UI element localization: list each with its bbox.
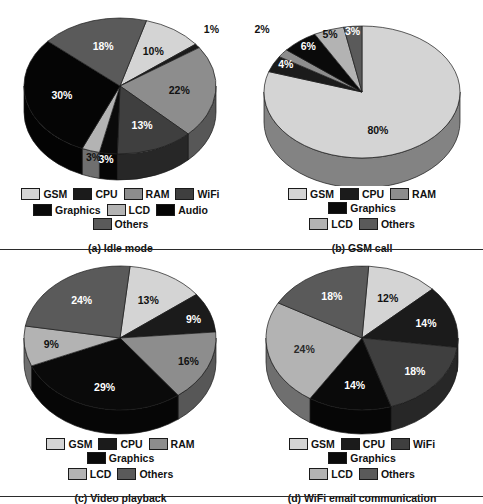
- legend-label-audio: Audio: [178, 204, 208, 216]
- legend-item-lcd: LCD: [309, 468, 353, 480]
- slice-value-label-gsm: 10%: [143, 45, 165, 57]
- legend-swatch-others: [359, 468, 378, 480]
- legend-swatch-gsm: [46, 438, 65, 450]
- legend-item-gsm: GSM: [288, 188, 334, 200]
- chart-panel-idle-mode: 10%1%22%13%3%3%30%18% GSMCPURAMWiFiGraph…: [0, 0, 241, 250]
- legend-swatch-gsm: [21, 188, 40, 200]
- legend-swatch-graphics: [33, 204, 52, 216]
- legend-label-cpu: CPU: [95, 188, 117, 200]
- slice-value-label-others: 18%: [93, 40, 115, 52]
- legend-item-gsm: GSM: [46, 438, 92, 450]
- panel-divider-middle: [0, 249, 483, 250]
- slice-value-label-graphics: 6%: [300, 40, 316, 52]
- chart-panel-gsm-call: 80%4%2%6%5%3% GSMCPURAMGraphicsLCDOthers…: [241, 0, 483, 250]
- legend-label-lcd: LCD: [129, 204, 151, 216]
- legend-label-gsm: GSM: [43, 188, 67, 200]
- legend-swatch-ram: [124, 188, 143, 200]
- slice-value-label-ram: 22%: [169, 84, 191, 96]
- legend-swatch-lcd: [309, 468, 328, 480]
- legend-item-lcd: LCD: [309, 218, 353, 230]
- legend-label-others: Others: [139, 468, 173, 480]
- legend-swatch-graphics: [328, 202, 347, 214]
- legend-item-cpu: CPU: [98, 438, 142, 450]
- legend-label-cpu: CPU: [362, 188, 384, 200]
- slice-value-label-lcd: 24%: [293, 343, 315, 355]
- legend-item-cpu: CPU: [340, 188, 384, 200]
- pie-svg: 12%14%18%14%24%18%: [250, 250, 475, 436]
- legend-item-graphics: Graphics: [328, 202, 396, 214]
- legend-item-others: Others: [359, 468, 415, 480]
- slice-value-label-wifi: 18%: [404, 365, 426, 377]
- slice-value-label-wifi: 13%: [132, 119, 154, 131]
- legend-idle-mode: GSMCPURAMWiFiGraphicsLCDAudioOthers: [8, 188, 234, 230]
- legend-swatch-graphics: [87, 452, 106, 464]
- legend-item-ram: RAM: [124, 188, 170, 200]
- slice-value-label-others: 18%: [321, 290, 343, 302]
- legend-label-graphics: Graphics: [55, 204, 101, 216]
- legend-item-ram: RAM: [149, 438, 195, 450]
- legend-swatch-lcd: [68, 468, 87, 480]
- legend-label-others: Others: [115, 218, 149, 230]
- legend-item-others: Others: [93, 218, 149, 230]
- legend-swatch-ram: [149, 438, 168, 450]
- legend-label-lcd: LCD: [90, 468, 112, 480]
- slice-value-label-graphics: 14%: [344, 379, 366, 391]
- legend-swatch-gsm: [289, 438, 308, 450]
- legend-item-cpu: CPU: [341, 438, 385, 450]
- legend-swatch-cpu: [98, 438, 117, 450]
- pie-svg: 13%9%16%29%9%24%: [8, 250, 233, 436]
- legend-label-others: Others: [381, 218, 415, 230]
- slice-value-label-cpu: 1%: [204, 23, 220, 35]
- legend-gsm-call: GSMCPURAMGraphicsLCDOthers: [254, 188, 470, 230]
- legend-swatch-lcd: [309, 218, 328, 230]
- slice-value-label-gsm: 80%: [367, 124, 389, 136]
- caption-video-playback: (c) Video playback: [74, 492, 166, 504]
- legend-item-wifi: WiFi: [175, 188, 219, 200]
- slice-value-label-others: 3%: [344, 25, 360, 37]
- pie-chart-wifi-email: 12%14%18%14%24%18%: [241, 250, 483, 436]
- legend-swatch-ram: [390, 188, 409, 200]
- legend-item-lcd: LCD: [107, 204, 151, 216]
- slice-value-label-cpu: 9%: [186, 313, 202, 325]
- legend-swatch-gsm: [288, 188, 307, 200]
- chart-panel-wifi-email: 12%14%18%14%24%18% GSMCPUWiFiGraphicsLCD…: [241, 250, 483, 499]
- chart-panel-video-playback: 13%9%16%29%9%24% GSMCPURAMGraphicsLCDOth…: [0, 250, 241, 499]
- slice-value-label-cpu: 14%: [415, 317, 437, 329]
- pie-chart-video-playback: 13%9%16%29%9%24%: [0, 250, 241, 436]
- slice-value-label-ram: 2%: [254, 23, 270, 35]
- pie-svg: 10%1%22%13%3%3%30%18%: [8, 0, 233, 186]
- slice-value-label-lcd: 9%: [44, 338, 60, 350]
- legend-label-wifi: WiFi: [413, 438, 435, 450]
- legend-swatch-cpu: [73, 188, 92, 200]
- legend-label-gsm: GSM: [68, 438, 92, 450]
- legend-label-ram: RAM: [146, 188, 170, 200]
- slice-value-label-graphics: 29%: [94, 381, 116, 393]
- legend-label-graphics: Graphics: [350, 452, 396, 464]
- legend-label-gsm: GSM: [311, 438, 335, 450]
- legend-label-others: Others: [381, 468, 415, 480]
- slice-value-label-gsm: 12%: [377, 292, 399, 304]
- legend-swatch-others: [359, 218, 378, 230]
- legend-swatch-audio: [156, 204, 175, 216]
- legend-label-lcd: LCD: [331, 468, 353, 480]
- legend-swatch-cpu: [340, 188, 359, 200]
- slice-value-label-others: 24%: [71, 294, 93, 306]
- legend-item-graphics: Graphics: [87, 452, 155, 464]
- legend-item-ram: RAM: [390, 188, 436, 200]
- legend-item-others: Others: [359, 218, 415, 230]
- slice-value-label-gsm: 13%: [138, 294, 160, 306]
- legend-label-ram: RAM: [171, 438, 195, 450]
- slice-value-label-ram: 16%: [178, 355, 200, 367]
- pie-svg: 80%4%2%6%5%3%: [250, 0, 475, 186]
- slice-value-label-cpu: 4%: [278, 58, 294, 70]
- legend-swatch-wifi: [391, 438, 410, 450]
- slice-value-label-audio: 30%: [51, 89, 73, 101]
- legend-label-gsm: GSM: [310, 188, 334, 200]
- legend-swatch-lcd: [107, 204, 126, 216]
- legend-swatch-cpu: [341, 438, 360, 450]
- legend-item-others: Others: [117, 468, 173, 480]
- legend-item-lcd: LCD: [68, 468, 112, 480]
- pie-top-faces: [264, 26, 460, 158]
- legend-item-gsm: GSM: [21, 188, 67, 200]
- legend-label-graphics: Graphics: [109, 452, 155, 464]
